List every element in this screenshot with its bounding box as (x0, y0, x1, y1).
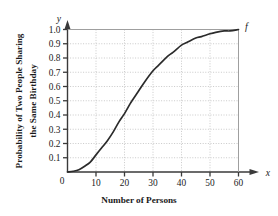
y-tick-label: 0.8 (49, 53, 61, 63)
birthday-probability-chart: 0.10.20.30.40.50.60.70.80.91.0 102030405… (0, 0, 278, 216)
x-tick-label: 10 (91, 178, 101, 188)
y-tick-label: 0.3 (49, 125, 61, 135)
y-axis-title-line1: Probability of Two People Sharing (14, 33, 24, 168)
origin-label: 0 (60, 176, 65, 186)
y-tick-label: 0.9 (49, 39, 61, 49)
x-tick-label: 20 (120, 178, 130, 188)
x-axis-title: Number of Persons (101, 195, 177, 205)
y-axis-variable-label: y (56, 13, 62, 24)
x-tick-label: 60 (234, 178, 244, 188)
y-tick-label: 0.7 (49, 68, 61, 78)
y-tick-label: 0.6 (49, 82, 61, 92)
y-tick-label: 0.2 (49, 139, 61, 149)
y-tick-label: 1.0 (49, 25, 61, 35)
x-tick-label: 30 (148, 178, 158, 188)
chart-figure: 0.10.20.30.40.50.60.70.80.91.0 102030405… (0, 0, 278, 216)
y-axis-title-line2: the Same Birthday (28, 64, 38, 138)
y-tick-label: 0.1 (49, 153, 61, 163)
y-tick-label: 0.4 (49, 110, 61, 120)
x-tick-label: 50 (205, 178, 215, 188)
x-axis-variable-label: x (265, 167, 271, 178)
x-tick-label: 40 (177, 178, 187, 188)
y-tick-label: 0.5 (49, 96, 61, 106)
